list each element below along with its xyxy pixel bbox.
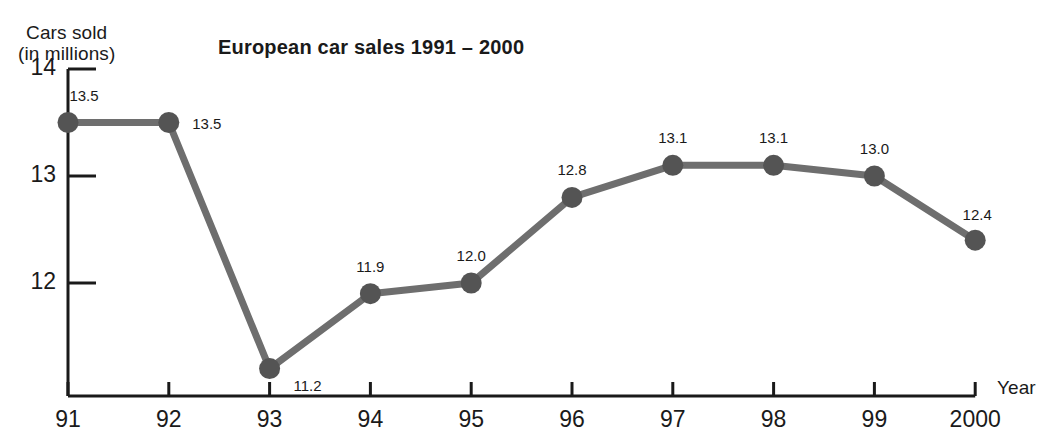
chart-series xyxy=(58,112,986,379)
y-tick-label: 12 xyxy=(10,268,56,295)
data-point-marker[interactable] xyxy=(562,187,583,208)
chart-container: Cars sold (in millions) European car sal… xyxy=(0,0,1059,448)
y-tick-label: 13 xyxy=(10,161,56,188)
x-tick-label: 97 xyxy=(660,406,686,433)
data-point-label: 11.2 xyxy=(294,377,322,394)
data-point-label: 13.1 xyxy=(658,129,687,146)
data-point-marker[interactable] xyxy=(461,273,482,294)
data-point-marker[interactable] xyxy=(864,166,885,187)
x-tick-label: 91 xyxy=(55,406,81,433)
data-point-label: 12.8 xyxy=(557,161,586,178)
data-point-marker[interactable] xyxy=(763,155,784,176)
data-point-marker[interactable] xyxy=(58,112,79,133)
data-point-marker[interactable] xyxy=(360,283,381,304)
data-point-marker[interactable] xyxy=(662,155,683,176)
x-tick-label: 96 xyxy=(559,406,585,433)
y-tick-label: 14 xyxy=(10,54,56,81)
data-point-label: 12.0 xyxy=(457,247,486,264)
data-point-label: 13.5 xyxy=(69,87,98,104)
x-tick-label: 94 xyxy=(358,406,384,433)
data-point-label: 13.1 xyxy=(759,129,788,146)
x-tick-label: 93 xyxy=(257,406,283,433)
data-point-label: 13.5 xyxy=(192,115,221,132)
data-point-marker[interactable] xyxy=(965,230,986,251)
chart-plot-area xyxy=(0,0,1059,448)
data-point-label: 12.4 xyxy=(963,206,992,223)
data-point-marker[interactable] xyxy=(259,358,280,379)
x-tick-label: 95 xyxy=(458,406,484,433)
data-point-label: 13.0 xyxy=(860,140,889,157)
x-tick-label: 2000 xyxy=(950,406,1001,433)
data-point-label: 11.9 xyxy=(356,258,384,275)
x-tick-label: 99 xyxy=(862,406,888,433)
x-tick-label: 92 xyxy=(156,406,182,433)
series-line xyxy=(68,123,975,369)
x-tick-label: 98 xyxy=(761,406,787,433)
data-point-marker[interactable] xyxy=(158,112,179,133)
